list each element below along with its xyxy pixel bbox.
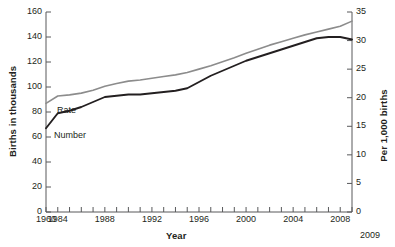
series-line-rate: [46, 21, 352, 103]
x-axis-ticks: [46, 207, 352, 212]
y-axis-right-ticks: [347, 12, 352, 212]
y-axis-right-tick-label: 20: [356, 92, 382, 102]
dual-axis-line-chart: Births in thousands Per 1,000 births Yea…: [0, 0, 395, 247]
x-axis-tick-label: 2000: [226, 214, 266, 224]
y-axis-left-tick-label: 40: [16, 156, 42, 166]
y-axis-right-tick-label: 15: [356, 120, 382, 130]
x-axis-tick-label: 1992: [132, 214, 172, 224]
y-axis-left-tick-label: 120: [16, 56, 42, 66]
plot-area: [0, 0, 395, 247]
x-axis-tick-label: 1996: [179, 214, 219, 224]
y-axis-left-tick-label: 100: [16, 81, 42, 91]
y-axis-left-tick-label: 160: [16, 6, 42, 16]
x-axis-tick-label: 1988: [85, 214, 125, 224]
y-axis-right-tick-label: 30: [356, 35, 382, 45]
y-axis-left-ticks: [46, 12, 51, 212]
series-line-number: [46, 37, 352, 128]
y-axis-right-tick-label: 10: [356, 149, 382, 159]
y-axis-right-tick-label: 25: [356, 63, 382, 73]
y-axis-right-tick-label: 35: [356, 6, 382, 16]
x-axis-tick-label: 2008: [320, 214, 360, 224]
y-axis-left-tick-label: 140: [16, 31, 42, 41]
y-axis-left-tick-label: 20: [16, 181, 42, 191]
x-axis-tick-label: 2004: [273, 214, 313, 224]
y-axis-left-tick-label: 60: [16, 131, 42, 141]
x-axis-tick-label: 1984: [38, 214, 78, 224]
y-axis-left-tick-label: 80: [16, 106, 42, 116]
y-axis-right-tick-label: 5: [356, 177, 382, 187]
